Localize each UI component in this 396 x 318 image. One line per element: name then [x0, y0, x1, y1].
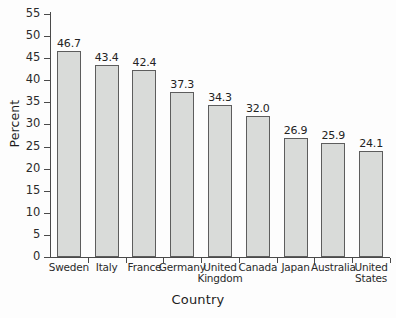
- y-tick-label: 15: [0, 185, 40, 197]
- bar: [246, 116, 270, 257]
- bar-value-label: 26.9: [276, 125, 316, 136]
- y-tick-label: 50: [0, 30, 40, 42]
- y-tick-label: 0: [0, 251, 40, 263]
- bar-value-label: 37.3: [162, 79, 202, 90]
- y-tick-label: 5: [0, 229, 40, 241]
- bar: [208, 105, 232, 257]
- plot-area: 46.743.442.437.334.332.026.925.924.1: [50, 14, 390, 257]
- y-tick-label: 55: [0, 8, 40, 20]
- bar: [170, 92, 194, 257]
- bar: [57, 51, 81, 257]
- bar-value-label: 24.1: [351, 138, 391, 149]
- y-tick-label: 45: [0, 52, 40, 64]
- bar-value-label: 25.9: [313, 130, 353, 141]
- bar-value-label: 43.4: [87, 52, 127, 63]
- bar: [132, 70, 156, 257]
- bar-value-label: 42.4: [124, 57, 164, 68]
- x-axis-line: [50, 257, 390, 258]
- bar: [95, 65, 119, 257]
- bar: [359, 151, 383, 257]
- y-tick-mark: [44, 257, 50, 258]
- bar: [284, 138, 308, 257]
- bar-chart: 0510152025303540455055 46.743.442.437.33…: [0, 0, 396, 318]
- x-axis-title: Country: [0, 292, 396, 307]
- bar: [321, 143, 345, 257]
- x-category-label: United States: [345, 262, 396, 284]
- y-axis-title: Percent: [7, 84, 22, 164]
- bar-value-label: 46.7: [49, 38, 89, 49]
- bar-value-label: 34.3: [200, 92, 240, 103]
- bar-value-label: 32.0: [238, 103, 278, 114]
- y-tick-label: 20: [0, 163, 40, 175]
- y-tick-label: 10: [0, 207, 40, 219]
